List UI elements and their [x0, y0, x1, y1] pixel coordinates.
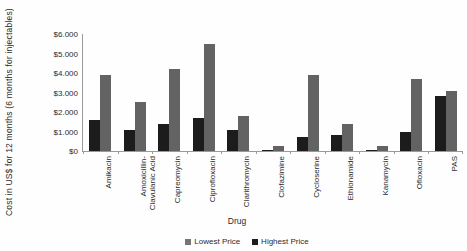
bar-highest-price	[193, 118, 204, 151]
bar-highest-price	[400, 132, 411, 152]
bar-lowest-price	[135, 102, 146, 151]
x-axis-tick	[83, 151, 84, 154]
x-axis-tick	[256, 151, 257, 154]
x-axis-tick	[359, 151, 360, 154]
legend-label: Highest Price	[261, 237, 309, 246]
bar-highest-price	[297, 137, 308, 151]
bar-highest-price	[262, 150, 273, 151]
legend-label: Lowest Price	[194, 237, 240, 246]
x-axis-title: Drug	[30, 216, 444, 226]
plot-area	[82, 34, 463, 152]
bar-lowest-price	[238, 116, 249, 151]
bar-lowest-price	[342, 124, 353, 151]
x-category-label: Capreomycin	[173, 156, 182, 203]
y-tick-label: $6.000	[54, 30, 78, 39]
bar-highest-price	[124, 130, 135, 151]
x-category-label: Ethionamide	[346, 156, 355, 200]
x-axis-tick	[394, 151, 395, 154]
bar-lowest-price	[169, 69, 180, 151]
y-tick-label: $0	[69, 147, 78, 156]
x-category-label: Amikacin	[104, 156, 113, 188]
legend: Lowest PriceHighest Price	[82, 237, 412, 246]
bar-highest-price	[227, 130, 238, 151]
bar-highest-price	[158, 124, 169, 151]
bar-lowest-price	[377, 146, 388, 151]
y-tick-label: $3.000	[54, 88, 78, 97]
x-axis-tick	[325, 151, 326, 154]
x-category-label: Clofazimine	[277, 156, 286, 198]
x-axis-tick	[118, 151, 119, 154]
legend-item: Lowest Price	[185, 237, 240, 246]
x-category-label: Cycloserine	[312, 156, 321, 198]
x-category-label: Ciprofloxacin	[208, 156, 217, 202]
bar-lowest-price	[273, 146, 284, 151]
bar-highest-price	[366, 150, 377, 151]
y-tick-label: $1.000	[54, 127, 78, 136]
y-axis-tick-labels: $0$1.000$2.000$3.000$4.000$5.000$6.000	[0, 34, 78, 151]
legend-item: Highest Price	[252, 237, 309, 246]
x-axis-tick	[187, 151, 188, 154]
x-category-label: Clarithromycin	[242, 156, 251, 207]
x-axis-tick	[462, 151, 463, 154]
x-category-label: Kanamycin	[381, 156, 390, 196]
x-axis-tick	[152, 151, 153, 154]
x-category-label: Amoxicillin- Clavulanic Acid	[139, 156, 157, 210]
x-category-label: PAS	[450, 156, 459, 171]
legend-swatch-icon	[185, 239, 191, 245]
y-tick-label: $4.000	[54, 69, 78, 78]
y-tick-label: $5.000	[54, 49, 78, 58]
bar-highest-price	[435, 96, 446, 151]
bar-highest-price	[331, 135, 342, 151]
bar-highest-price	[89, 120, 100, 151]
bar-lowest-price	[446, 91, 457, 151]
y-tick-label: $2.000	[54, 108, 78, 117]
legend-swatch-icon	[252, 239, 258, 245]
bar-lowest-price	[411, 79, 422, 151]
bar-lowest-price	[100, 75, 111, 151]
bar-lowest-price	[308, 75, 319, 151]
bar-lowest-price	[204, 44, 215, 151]
x-axis-tick	[290, 151, 291, 154]
x-category-label: Ofloxacin	[415, 156, 424, 189]
x-axis-tick	[221, 151, 222, 154]
x-axis-tick	[428, 151, 429, 154]
